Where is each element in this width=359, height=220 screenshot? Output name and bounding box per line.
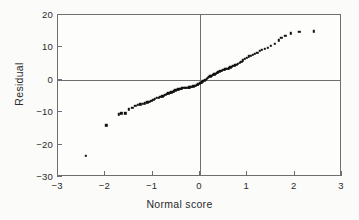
data-point <box>124 112 126 114</box>
x-axis-title: Normal score <box>0 198 359 210</box>
y-tick-mark <box>57 79 62 80</box>
y-axis-title: Residual <box>13 34 25 134</box>
y-tick-mark <box>57 46 62 47</box>
x-tick-label: 1 <box>244 180 249 191</box>
data-point <box>274 42 276 44</box>
x-tick-mark <box>341 171 342 176</box>
x-tick-label: 0 <box>196 180 201 191</box>
data-point <box>266 47 268 49</box>
y-tick-label: 20 <box>19 9 53 20</box>
x-tick-mark <box>104 171 105 176</box>
y-tick-mark <box>57 14 62 15</box>
zero-normal-score-reference-line <box>200 15 201 175</box>
data-point <box>128 108 130 110</box>
data-point <box>284 35 286 37</box>
data-point <box>313 30 315 32</box>
y-tick-label: −20 <box>19 138 53 149</box>
x-tick-label: −3 <box>51 180 62 191</box>
x-tick-mark <box>152 171 153 176</box>
x-tick-label: 2 <box>291 180 296 191</box>
x-tick-label: −2 <box>99 180 110 191</box>
x-tick-mark <box>294 171 295 176</box>
y-tick-mark <box>57 144 62 145</box>
zero-residual-reference-line <box>58 80 340 81</box>
data-point <box>105 124 107 126</box>
x-tick-mark <box>199 171 200 176</box>
normal-probability-plot-figure: −3−2−10123 −30−20−1001020 Normal score R… <box>0 0 359 220</box>
plot-area <box>57 14 341 176</box>
data-point <box>277 39 279 41</box>
x-tick-mark <box>246 171 247 176</box>
data-point <box>298 30 300 32</box>
data-point <box>120 112 122 114</box>
y-tick-label: −30 <box>19 171 53 182</box>
y-tick-mark <box>57 111 62 112</box>
x-tick-label: −1 <box>146 180 157 191</box>
data-point <box>290 32 292 34</box>
data-point <box>280 36 282 38</box>
y-tick-mark <box>57 176 62 177</box>
x-tick-label: 3 <box>338 180 343 191</box>
data-point <box>85 155 87 157</box>
data-point <box>270 45 272 47</box>
